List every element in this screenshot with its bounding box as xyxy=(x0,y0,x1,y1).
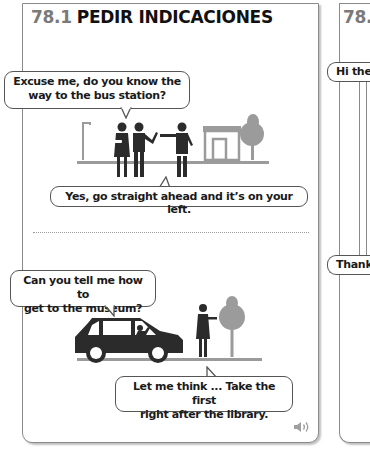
lamp-post-icon xyxy=(82,122,91,160)
roof xyxy=(203,126,241,132)
panel-number: 78.2 xyxy=(343,7,370,27)
panel-number: 78.1 xyxy=(31,7,72,27)
bubble-text-line: way to the bus station? xyxy=(11,89,183,103)
panel-title: 78.1PEDIR INDICACIONES xyxy=(31,7,273,27)
tree-icon xyxy=(219,296,245,357)
panel-title: 78.2 xyxy=(343,7,370,27)
car-icon xyxy=(75,318,183,363)
dotted-divider xyxy=(33,232,309,233)
woman-pointing-icon xyxy=(196,304,217,357)
tree-icon xyxy=(240,114,264,160)
ground-line xyxy=(77,161,269,164)
bus-station-illustration xyxy=(70,112,275,192)
speech-bubble-answer-1: Yes, go straight ahead and it’s on your … xyxy=(50,186,308,207)
museum-directions-illustration xyxy=(70,295,270,365)
speech-bubble-answer-2: Let me think ... Take the first right af… xyxy=(115,376,293,412)
man-figure-icon xyxy=(133,123,158,178)
speech-bubble-question-1: Excuse me, do you know the way to the bu… xyxy=(4,71,190,109)
bubble-text: Thank xyxy=(336,258,370,271)
bus-station-building-icon xyxy=(205,131,239,160)
pointing-man-icon xyxy=(160,123,193,178)
speaker-icon[interactable] xyxy=(293,420,311,434)
woman-figure-icon xyxy=(114,123,130,178)
bubble-text: Hi the xyxy=(336,65,370,78)
panel-heading: PEDIR INDICACIONES xyxy=(77,7,273,27)
page: 78.1PEDIR INDICACIONES Excuse me, do you… xyxy=(0,0,370,453)
right-connector-lines xyxy=(339,76,370,266)
bubble-text-line: right after the library. xyxy=(122,408,286,422)
bubble-text-line: Excuse me, do you know the xyxy=(11,75,183,89)
ground-line xyxy=(77,358,262,361)
bubble-text-line: Let me think ... Take the first xyxy=(122,380,286,408)
